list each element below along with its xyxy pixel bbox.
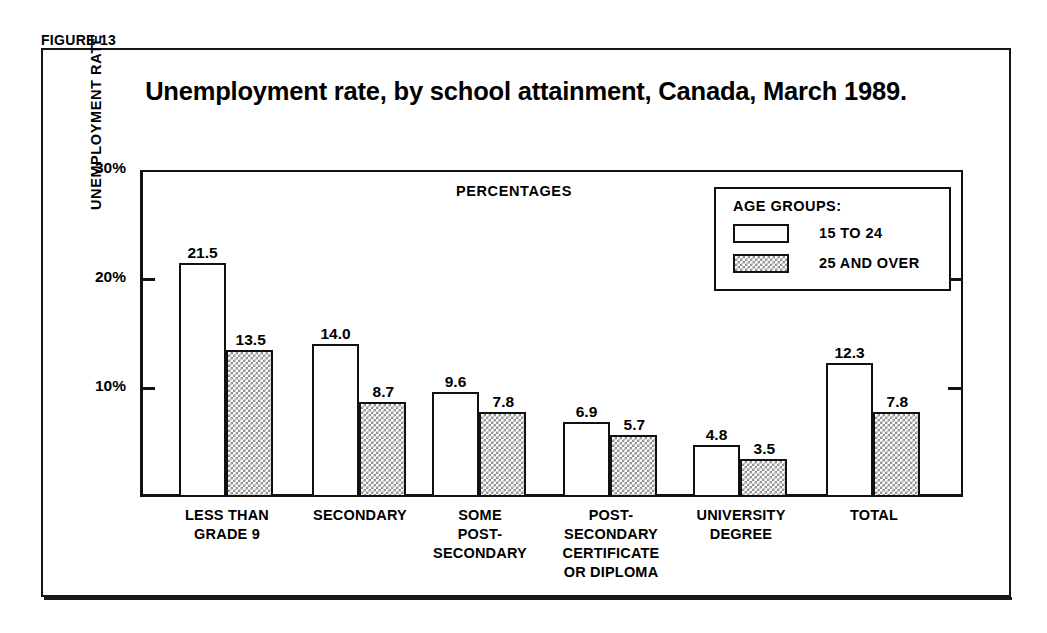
legend: AGE GROUPS: 15 TO 2425 AND OVER (714, 187, 951, 291)
category-label: POST- SECONDARY CERTIFICATE OR DIPLOMA (552, 506, 670, 583)
legend-swatch (733, 254, 789, 273)
bar-value-label: 9.6 (445, 373, 467, 391)
bar: 4.8 (693, 445, 740, 497)
bar: 7.8 (873, 412, 920, 497)
y-axis-tick-label: 30% (95, 159, 126, 177)
bar-value-label: 5.7 (624, 416, 646, 434)
y-axis-title-label: UNEMPLOYMENT RATE (88, 34, 104, 210)
legend-label: 25 AND OVER (819, 255, 920, 271)
percentages-annotation: PERCENTAGES (456, 183, 572, 199)
bar: 8.7 (359, 402, 406, 497)
bar-value-label: 7.8 (493, 393, 515, 411)
bar: 5.7 (610, 435, 657, 497)
bar-value-label: 8.7 (373, 383, 395, 401)
bar-value-label: 13.5 (236, 331, 266, 349)
bar-value-label: 6.9 (576, 403, 598, 421)
y-axis-tick-label: 20% (95, 268, 126, 286)
bar-value-label: 7.8 (887, 393, 909, 411)
bar: 14.0 (312, 344, 359, 497)
y-axis-tick-mark (948, 387, 963, 390)
y-axis-tick-mark (140, 278, 155, 281)
bar: 12.3 (826, 363, 873, 497)
category-label: LESS THAN GRADE 9 (168, 506, 286, 544)
bar: 21.5 (179, 263, 226, 497)
category-label: SOME POST- SECONDARY (421, 506, 539, 563)
bar: 9.6 (432, 392, 479, 497)
bar: 3.5 (740, 459, 787, 497)
bar-value-label: 14.0 (320, 325, 350, 343)
bar: 6.9 (563, 422, 610, 497)
bar-value-label: 4.8 (706, 426, 728, 444)
y-axis-tick-label: 10% (95, 377, 126, 395)
figure-frame-rule (44, 597, 1012, 600)
category-label: UNIVERSITY DEGREE (682, 506, 800, 544)
bar-value-label: 3.5 (754, 440, 776, 458)
category-label: SECONDARY (301, 506, 419, 525)
plot-area: UNEMPLOYMENT RATE PERCENTAGES 10%20%30% … (140, 170, 963, 497)
y-axis-tick-mark (140, 387, 155, 390)
bar-value-label: 12.3 (834, 344, 864, 362)
legend-title: AGE GROUPS: (733, 198, 842, 214)
bar-value-label: 21.5 (187, 244, 217, 262)
y-axis-title: UNEMPLOYMENT RATE (88, 0, 104, 210)
bar: 7.8 (479, 412, 526, 497)
chart-title: Unemployment rate, by school attainment,… (41, 77, 1011, 106)
category-label: TOTAL (815, 506, 933, 525)
legend-label: 15 TO 24 (819, 225, 882, 241)
legend-swatch (733, 224, 789, 243)
bar: 13.5 (226, 350, 273, 497)
figure-label: FIGURE 13 (41, 32, 116, 48)
